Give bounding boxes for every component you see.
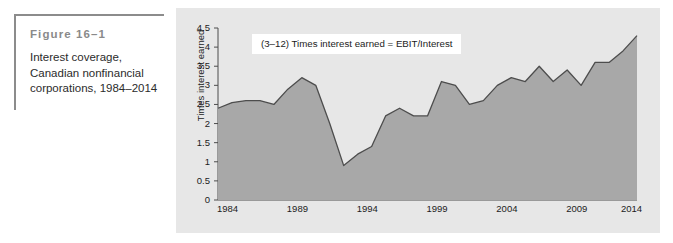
plot-area: Times interest earned 00.511.522.533.544… [176, 8, 660, 233]
series-area-fill [218, 36, 637, 200]
figure-caption-panel: Figure 16–1 Interest coverage, Canadian … [14, 14, 164, 110]
chart-panel: Times interest earned 00.511.522.533.544… [176, 8, 660, 233]
caption-top-rule [14, 14, 164, 16]
caption-left-rule [14, 14, 16, 110]
figure-number: Figure 16–1 [30, 28, 106, 40]
chart-annotation: (3–12) Times interest earned = EBIT/Inte… [252, 34, 461, 54]
figure-caption-text: Interest coverage, Canadian nonfinancial… [30, 50, 162, 97]
y-axis-ticks [214, 28, 218, 200]
